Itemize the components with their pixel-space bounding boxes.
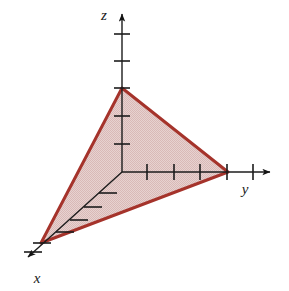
y-axis-label: y (240, 181, 249, 197)
coordinate-axes-diagram: z y x (0, 0, 289, 291)
z-axis-label: z (100, 7, 107, 23)
figure-canvas: z y x (0, 0, 289, 291)
x-axis-label: x (33, 270, 41, 286)
